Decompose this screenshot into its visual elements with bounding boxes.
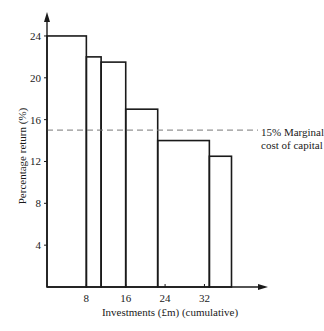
y-tick-label: 24 — [30, 30, 42, 42]
x-axis-arrow-icon — [258, 284, 268, 290]
x-tick-label: 16 — [120, 292, 132, 304]
bar-2 — [86, 57, 101, 287]
y-tick-label: 12 — [30, 155, 41, 167]
x-axis-label: Investments (£m) (cumulative) — [0, 306, 320, 318]
bar-6 — [209, 156, 231, 287]
bar-1 — [47, 36, 86, 287]
y-tick-label: 8 — [36, 197, 42, 209]
x-tick-label: 32 — [199, 292, 210, 304]
marginal-cost-annotation: 15% Marginal cost of capital — [261, 126, 324, 152]
bar-4 — [126, 109, 158, 287]
bar-3 — [101, 62, 126, 287]
bar-5 — [158, 141, 210, 287]
y-tick-label: 16 — [30, 114, 42, 126]
y-axis-arrow-icon — [44, 12, 50, 22]
y-axis-label: Percentage return (%) — [16, 96, 28, 216]
annotation-line-2: cost of capital — [261, 139, 324, 152]
x-tick-label: 8 — [84, 292, 90, 304]
y-tick-label: 20 — [30, 72, 42, 84]
x-tick-label: 24 — [160, 292, 172, 304]
annotation-line-1: 15% Marginal — [261, 126, 324, 139]
y-tick-label: 4 — [36, 239, 42, 251]
